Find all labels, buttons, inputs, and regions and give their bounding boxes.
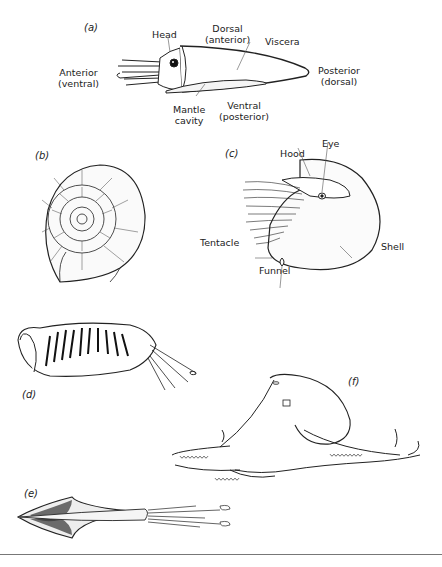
annotation-line: (anterior) [205,34,250,45]
annotation-line: (posterior) [219,111,269,122]
annotation-line: Posterior [318,65,360,76]
annotation-dorsal-anterior: Dorsal (anterior) [205,23,250,45]
annotation-hood: Hood [280,148,305,159]
annotation-line: Anterior [58,67,99,78]
caption-divider [0,554,442,555]
panel-label-f: (f) [348,376,359,387]
ammonite-illustration [42,165,145,282]
annotation-shell: Shell [381,241,404,252]
panel-label-a: (a) [84,22,98,33]
squid-illustration [18,497,230,538]
annotation-mantle-cavity: Mantle cavity [173,104,205,126]
panel-label-b: (b) [35,150,49,161]
annotation-ventral-posterior: Ventral (posterior) [219,100,269,122]
annotation-eye: Eye [322,138,339,149]
panel-label-e: (e) [24,488,38,499]
annotation-funnel: Funnel [259,265,291,276]
annotation-posterior-dorsal: Posterior (dorsal) [318,65,360,87]
annotation-line: (dorsal) [318,76,360,87]
annotation-line: Mantle [173,104,205,115]
annotation-anterior-ventral: Anterior (ventral) [58,67,99,89]
annotation-line: cavity [173,115,205,126]
annotation-line: (ventral) [58,78,99,89]
annotation-line: Ventral [219,100,269,111]
annotation-head: Head [152,29,177,40]
cuttlefish-illustration [18,323,196,390]
panel-label-d: (d) [22,389,36,400]
panel-label-c: (c) [225,148,238,159]
annotation-tentacle: Tentacle [200,237,239,248]
annotation-viscera: Viscera [265,36,300,47]
octopus-illustration [172,374,420,480]
annotation-line: Dorsal [205,23,250,34]
